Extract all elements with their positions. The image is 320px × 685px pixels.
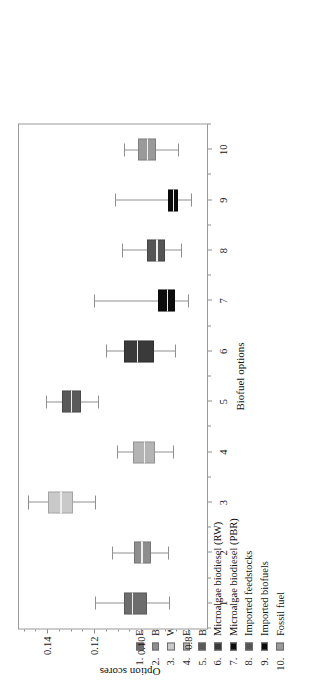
- x-tick-minor: [208, 173, 211, 174]
- legend-item-label: Fossil fuel: [275, 591, 286, 635]
- x-tick-label: 10: [218, 144, 229, 155]
- legend-item-number: 10.: [275, 657, 286, 677]
- y-axis-title: Option scores: [100, 665, 161, 677]
- x-tick: [208, 501, 212, 502]
- y-tick-label: 0.12: [89, 636, 100, 654]
- whisker-cap-max: [124, 143, 125, 156]
- x-tick-minor: [208, 425, 211, 426]
- x-tick-label: 1: [218, 600, 229, 605]
- y-tick-minor: [82, 629, 83, 632]
- y-tick-minor: [24, 629, 25, 632]
- y-tick-label: 0.14: [42, 636, 53, 654]
- x-tick-minor: [208, 123, 211, 124]
- legend-item-number: 9.: [259, 657, 270, 677]
- rotated-figure-stage: 1.Ethanol 1G2.Biodiesel 1G3.Waste-based …: [0, 0, 320, 685]
- x-tick-minor: [208, 577, 211, 578]
- y-tick-minor: [94, 629, 95, 632]
- x-tick: [208, 249, 212, 250]
- x-tick: [208, 199, 212, 200]
- x-tick: [208, 451, 212, 452]
- x-tick-label: 4: [218, 449, 229, 454]
- y-tick-minor: [165, 629, 166, 632]
- y-tick-minor: [59, 629, 60, 632]
- y-tick-label: 0.10: [136, 636, 147, 654]
- x-tick-label: 7: [218, 298, 229, 303]
- boxplot-panel: Option scores Biofuel options 1234567891…: [12, 117, 248, 677]
- x-tick-minor: [208, 526, 211, 527]
- y-tick-minor: [153, 629, 154, 632]
- plot-frame: Biofuel options 123456789100.140.120.100…: [18, 123, 208, 629]
- x-tick-minor: [208, 325, 211, 326]
- legend-swatch-icon: [276, 643, 284, 651]
- legend-swatch-icon: [261, 643, 269, 651]
- y-tick-minor: [106, 629, 107, 632]
- x-tick-minor: [208, 274, 211, 275]
- y-tick-minor: [35, 629, 36, 632]
- x-tick-label: 8: [218, 247, 229, 252]
- whisker-cap-min: [178, 143, 179, 156]
- x-axis-title: Biofuel options: [234, 342, 246, 410]
- x-tick: [208, 299, 212, 300]
- y-tick-minor: [71, 629, 72, 632]
- figure-root: 1.Ethanol 1G2.Biodiesel 1G3.Waste-based …: [0, 0, 320, 685]
- legend-item-label: Imported biofuels: [259, 561, 270, 636]
- y-tick-label: 0.8: [183, 636, 194, 649]
- y-tick-minor: [47, 629, 48, 632]
- x-tick: [208, 350, 212, 351]
- y-tick-minor: [176, 629, 177, 632]
- x-tick-label: 6: [218, 348, 229, 353]
- x-tick-label: 9: [218, 197, 229, 202]
- x-tick-minor: [208, 476, 211, 477]
- y-tick-minor: [200, 629, 201, 632]
- x-tick-label: 2: [218, 550, 229, 555]
- x-tick-minor: [208, 375, 211, 376]
- x-tick-label: 3: [218, 499, 229, 504]
- median-line: [147, 138, 148, 160]
- boxplot-item: [19, 124, 207, 628]
- y-tick-minor: [118, 629, 119, 632]
- x-tick: [208, 551, 212, 552]
- x-tick-label: 5: [218, 399, 229, 404]
- x-tick: [208, 602, 212, 603]
- x-tick-minor: [208, 627, 211, 628]
- y-tick-minor: [141, 629, 142, 632]
- legend-item-10: 10.Fossil fuel: [272, 591, 288, 677]
- legend-item-9: 9.Imported biofuels: [257, 561, 273, 677]
- x-tick: [208, 148, 212, 149]
- y-tick-minor: [129, 629, 130, 632]
- x-tick: [208, 400, 212, 401]
- y-tick-minor: [188, 629, 189, 632]
- x-tick-minor: [208, 224, 211, 225]
